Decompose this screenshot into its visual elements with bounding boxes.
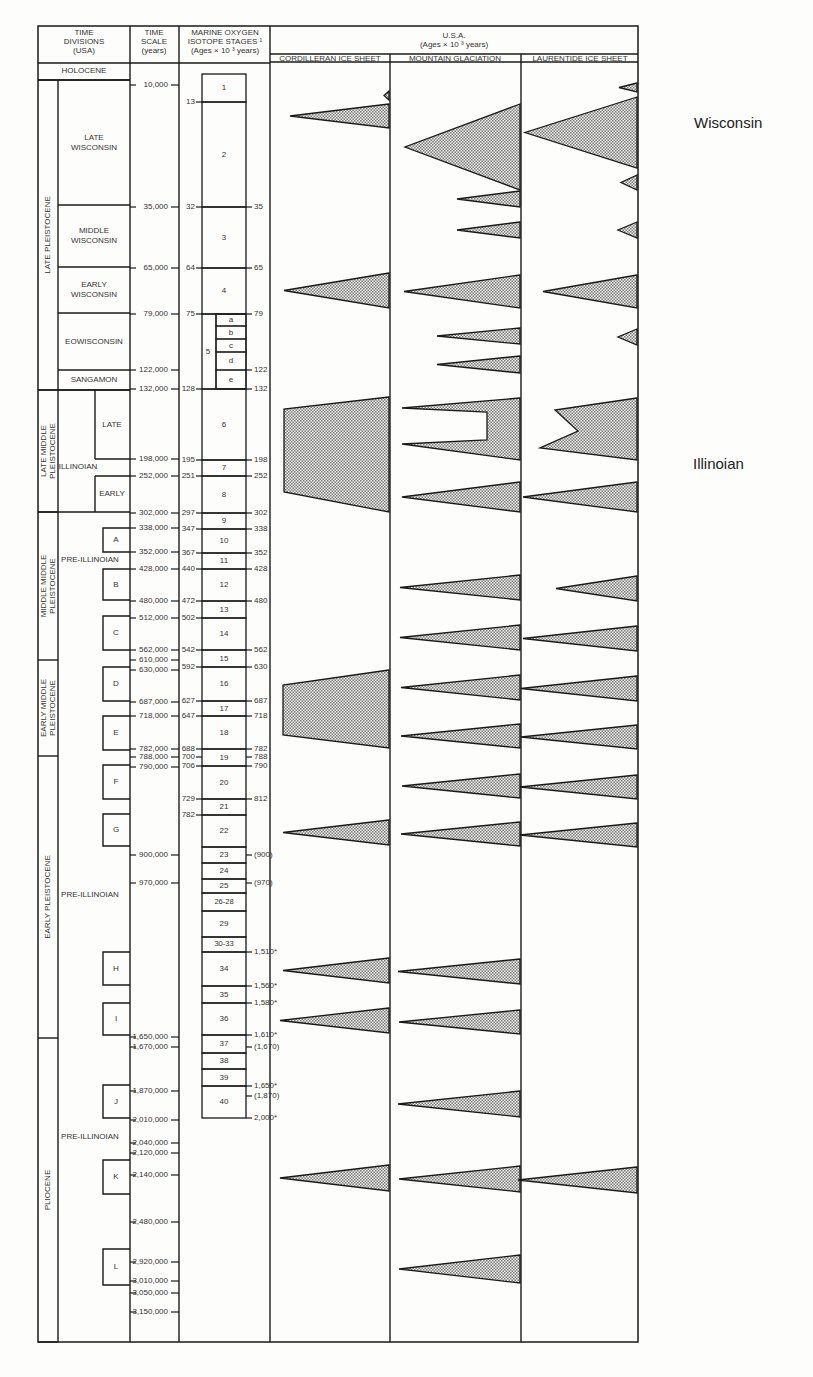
isotope-substage: d — [229, 356, 233, 365]
header-usa: (Ages × 10 ³ years) — [420, 40, 489, 49]
header-cordilleran: CORDILLERAN ICE SHEET — [279, 54, 380, 63]
glaciation-laurentide — [621, 175, 637, 190]
time-scale-value: 10,000 — [144, 80, 169, 89]
isotope-age-right: 132 — [254, 384, 268, 393]
isotope-age-right: 687 — [254, 696, 268, 705]
glaciation-cordilleran — [283, 820, 389, 845]
time-scale-value: 352,000 — [139, 547, 168, 556]
isotope-stage: 39 — [220, 1073, 229, 1082]
isotope-stage: 21 — [220, 802, 229, 811]
isotope-stage: 5 — [206, 347, 211, 356]
time-scale-value: 1,870,000 — [132, 1086, 168, 1095]
header-isotope-stages: MARINE OXYGEN — [191, 28, 259, 37]
isotope-age-right: 1,510* — [254, 947, 277, 956]
glaciation-laurentide — [521, 676, 637, 701]
glaciation-box-G: G — [113, 825, 119, 834]
glaciation-laurentide — [619, 83, 637, 92]
isotope-age-left: 627 — [182, 696, 196, 705]
time-scale-value: 630,000 — [139, 665, 168, 674]
time-scale-value: 302,000 — [139, 508, 168, 517]
usa-stage: ILLINOIAN — [59, 462, 98, 471]
usa-stage: PRE-ILLINOIAN — [61, 555, 119, 564]
isotope-age-left: 251 — [182, 471, 196, 480]
isotope-stage: 15 — [220, 654, 229, 663]
time-scale-value: 687,000 — [139, 697, 168, 706]
isotope-age-right: 302 — [254, 508, 268, 517]
svg-text:LATE MIDDLE: LATE MIDDLE — [39, 425, 48, 477]
isotope-stage: 12 — [220, 580, 229, 589]
glaciation-laurentide — [521, 725, 637, 749]
time-scale-value: 132,000 — [139, 384, 168, 393]
isotope-age-left: 440 — [182, 564, 196, 573]
isotope-stage: 11 — [220, 556, 229, 565]
usa-stage: MIDDLE — [79, 226, 109, 235]
glaciation-mountain — [398, 1091, 520, 1117]
glaciation-mountain — [405, 104, 520, 190]
time-scale-value: 2,010,000 — [132, 1115, 168, 1124]
glaciation-laurentide — [518, 1167, 637, 1193]
isotope-stage: 17 — [220, 704, 229, 713]
isotope-stage: 30-33 — [214, 939, 233, 948]
svg-text:PLEISTOCENE: PLEISTOCENE — [48, 423, 57, 479]
time-scale-value: 718,000 — [139, 711, 168, 720]
glaciation-laurentide — [540, 398, 637, 460]
isotope-substage: b — [229, 328, 234, 337]
time-scale-value: 2,480,000 — [132, 1217, 168, 1226]
time-scale-value: 198,000 — [139, 454, 168, 463]
isotope-age-right: 35 — [254, 202, 263, 211]
isotope-stage: 9 — [222, 516, 227, 525]
glaciation-cordilleran — [280, 1165, 389, 1191]
isotope-age-left: 195 — [182, 455, 196, 464]
isotope-stage: 38 — [220, 1056, 229, 1065]
glaciation-laurentide — [618, 329, 637, 345]
side-label-illinoian: Illinoian — [693, 455, 744, 472]
usa-stage: PRE-ILLINOIAN — [61, 890, 119, 899]
illinoian-substage: LATE — [102, 420, 121, 429]
usa-stage: EOWISCONSIN — [65, 337, 123, 346]
isotope-stage: 13 — [220, 605, 229, 614]
isotope-stage: 35 — [220, 990, 229, 999]
isotope-age-left: 647 — [182, 711, 196, 720]
glaciation-mountain — [457, 222, 520, 238]
isotope-age-left: 502 — [182, 613, 196, 622]
time-scale-value: 252,000 — [139, 471, 168, 480]
isotope-age-left: 700 — [182, 752, 196, 761]
time-scale-value: 2,040,000 — [132, 1138, 168, 1147]
glaciation-laurentide — [525, 97, 637, 168]
glaciation-cordilleran — [283, 670, 389, 748]
epoch-label: MIDDLE MIDDLEPLEISTOCENE — [39, 555, 57, 618]
time-scale-value: 338,000 — [139, 523, 168, 532]
time-scale-value: 79,000 — [144, 309, 169, 318]
time-scale-value: 2,140,000 — [132, 1170, 168, 1179]
isotope-age-right: 480 — [254, 596, 268, 605]
time-scale-value: 3,050,000 — [132, 1288, 168, 1297]
glaciation-box-J: J — [114, 1097, 118, 1106]
header-time-scale: TIME — [144, 28, 163, 37]
epoch-holocene: HOLOCENE — [62, 66, 107, 75]
glaciation-box-E: E — [113, 728, 118, 737]
glaciation-box-A: A — [113, 535, 119, 544]
isotope-stage: 40 — [220, 1097, 229, 1106]
isotope-age-left: 782 — [182, 810, 196, 819]
isotope-age-right: 252 — [254, 471, 268, 480]
isotope-age-left: 472 — [182, 596, 196, 605]
glaciation-laurentide — [520, 775, 637, 799]
isotope-substage: c — [229, 341, 233, 350]
isotope-stage: 4 — [222, 286, 227, 295]
svg-text:EARLY PLEISTOCENE: EARLY PLEISTOCENE — [43, 855, 52, 939]
isotope-age-right: (1,870) — [254, 1091, 280, 1100]
isotope-stage: 26-28 — [214, 897, 233, 906]
glaciation-cordilleran — [284, 273, 389, 308]
usa-stage: LATE — [84, 133, 103, 142]
time-scale-value: 788,000 — [139, 752, 168, 761]
isotope-stage: 6 — [222, 420, 227, 429]
isotope-stage: 8 — [222, 490, 227, 499]
isotope-age-right: (1,670) — [254, 1042, 280, 1051]
glaciation-mountain — [401, 724, 520, 748]
glaciation-mountain — [402, 482, 520, 512]
side-label-wisconsin: Wisconsin — [694, 114, 762, 131]
header-time-divisions: DIVISIONS — [64, 37, 104, 46]
glaciation-mountain — [404, 275, 520, 308]
isotope-age-right: 1,560* — [254, 981, 277, 990]
isotope-age-right: 428 — [254, 564, 268, 573]
